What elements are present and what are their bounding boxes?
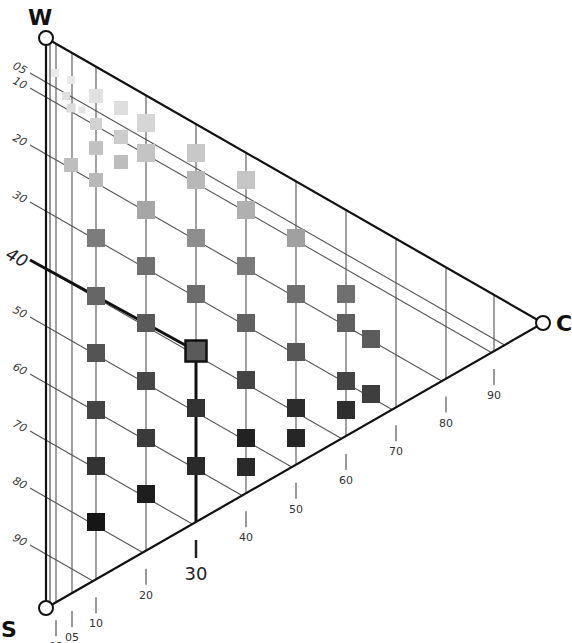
bottom-tick-label: 40 bbox=[239, 531, 253, 544]
data-point-square bbox=[337, 372, 355, 390]
data-point-square bbox=[90, 118, 102, 130]
data-point-square bbox=[187, 399, 205, 417]
bottom-tick-label: 20 bbox=[139, 589, 153, 602]
data-point-square bbox=[237, 458, 255, 476]
bottom-tick-label: 10 bbox=[89, 617, 103, 630]
data-point-square bbox=[187, 144, 205, 162]
vertex-s-label: S bbox=[1, 617, 17, 642]
data-point-square bbox=[287, 399, 305, 417]
highlighted-data-point bbox=[186, 341, 207, 362]
data-point-square bbox=[287, 429, 305, 447]
data-point-square bbox=[137, 201, 155, 219]
bottom-tick-label: 50 bbox=[289, 503, 303, 516]
data-point-square bbox=[51, 69, 59, 77]
data-point-square bbox=[87, 344, 105, 362]
data-point-square bbox=[87, 457, 105, 475]
data-point-square bbox=[137, 485, 155, 503]
data-point-square bbox=[67, 104, 76, 113]
data-point-square bbox=[87, 287, 105, 305]
data-point-square bbox=[337, 285, 355, 303]
edge-s-c bbox=[46, 323, 543, 608]
data-point-square bbox=[337, 314, 355, 332]
grid-line-diagonal bbox=[30, 545, 93, 581]
ternary-diagram: 05102030405060708090 0205102030405060708… bbox=[0, 0, 572, 643]
vertices: W S C bbox=[1, 5, 572, 642]
data-point-square bbox=[114, 130, 128, 144]
data-point-square bbox=[237, 314, 255, 332]
data-point-square bbox=[237, 429, 255, 447]
triangle-outline bbox=[46, 38, 543, 608]
vertex-s-marker bbox=[39, 601, 53, 615]
vertex-w-marker bbox=[39, 31, 53, 45]
data-point-square bbox=[362, 330, 380, 348]
left-tick-label: 50 bbox=[11, 303, 29, 321]
data-point-square bbox=[137, 429, 155, 447]
data-point-square bbox=[87, 513, 105, 531]
data-point-square bbox=[187, 229, 205, 247]
data-point-square bbox=[62, 92, 70, 100]
data-point-square bbox=[187, 457, 205, 475]
bottom-tick-label: 90 bbox=[487, 389, 501, 402]
data-point-square bbox=[114, 101, 128, 115]
data-point-square bbox=[79, 107, 86, 114]
data-point-square bbox=[287, 285, 305, 303]
data-point-square bbox=[137, 314, 155, 332]
left-tick-label: 70 bbox=[11, 417, 29, 435]
vertex-w-label: W bbox=[28, 5, 52, 30]
data-point-square bbox=[237, 201, 255, 219]
highlighted-reading-lines bbox=[30, 260, 196, 522]
data-point-square bbox=[137, 257, 155, 275]
grid-line-diagonal bbox=[30, 374, 242, 496]
bottom-tick-label: 70 bbox=[389, 445, 403, 458]
left-tick-label: 60 bbox=[11, 360, 29, 378]
vertex-c-label: C bbox=[556, 311, 572, 336]
data-point-square bbox=[237, 257, 255, 275]
left-tick-label: 40 bbox=[3, 244, 31, 272]
left-axis-ticks: 05102030405060708090 bbox=[3, 59, 31, 549]
data-points bbox=[51, 69, 380, 531]
data-point-square bbox=[89, 141, 103, 155]
bottom-tick-label: 05 bbox=[65, 631, 79, 643]
left-tick-label: 20 bbox=[11, 131, 29, 149]
left-tick-label: 10 bbox=[11, 74, 29, 92]
data-point-square bbox=[67, 76, 75, 84]
data-point-square bbox=[137, 372, 155, 390]
edge-w-c bbox=[46, 38, 543, 323]
bottom-axis-ticks: 0205102030405060708090 bbox=[49, 369, 501, 643]
data-point-square bbox=[87, 229, 105, 247]
data-point-square bbox=[64, 158, 78, 172]
bottom-tick-label: 30 bbox=[185, 563, 208, 584]
data-point-square bbox=[89, 173, 103, 187]
left-tick-label: 30 bbox=[11, 188, 29, 206]
data-point-square bbox=[187, 171, 205, 189]
data-point-square bbox=[287, 229, 305, 247]
bottom-tick-label: 60 bbox=[339, 474, 353, 487]
data-point-square bbox=[137, 114, 155, 132]
grid-line-diagonal bbox=[30, 431, 192, 524]
data-point-square bbox=[237, 371, 255, 389]
bottom-tick-label: 80 bbox=[439, 417, 453, 430]
data-point-square bbox=[137, 144, 155, 162]
left-tick-label: 80 bbox=[11, 474, 29, 492]
data-point-square bbox=[237, 171, 255, 189]
left-tick-label: 05 bbox=[11, 59, 29, 77]
data-point-square bbox=[337, 401, 355, 419]
reading-line-left bbox=[30, 260, 196, 351]
data-point-square bbox=[87, 401, 105, 419]
data-point-square bbox=[187, 285, 205, 303]
left-tick-label: 90 bbox=[11, 531, 29, 549]
data-point-square bbox=[362, 385, 380, 403]
vertex-c-marker bbox=[536, 316, 550, 330]
data-point-square bbox=[114, 155, 128, 169]
data-point-square bbox=[287, 343, 305, 361]
data-point-square bbox=[89, 89, 103, 103]
